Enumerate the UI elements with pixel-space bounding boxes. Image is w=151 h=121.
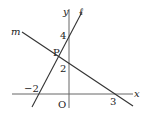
coordinate-diagram: y ℓ m 4 P 2 −2 O 3 x [0, 0, 151, 121]
line-m-label: m [11, 26, 20, 37]
point-p-label: P [53, 47, 60, 58]
diagram-canvas: y ℓ m 4 P 2 −2 O 3 x [0, 0, 151, 121]
y-tick-2: 2 [60, 63, 66, 74]
x-tick-neg2: −2 [24, 83, 39, 94]
line-l-label: ℓ [79, 6, 83, 17]
line-l [32, 12, 82, 107]
x-tick-3: 3 [110, 96, 116, 107]
y-tick-4: 4 [60, 30, 66, 41]
origin-label: O [58, 99, 66, 110]
y-axis-label: y [62, 6, 69, 17]
x-axis-label: x [134, 88, 140, 99]
